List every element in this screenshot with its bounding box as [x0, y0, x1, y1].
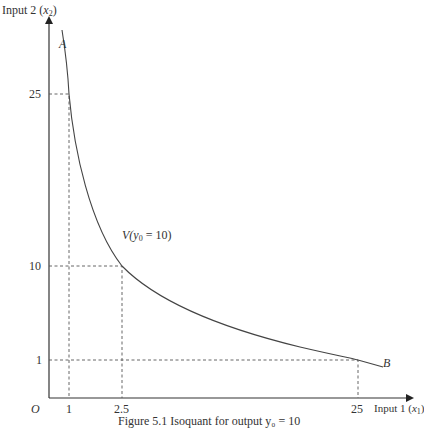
- curve-label: V(y0 = 10): [122, 229, 171, 243]
- point-a-label: A: [59, 38, 66, 50]
- y-axis-label: Input 2 (x2): [2, 4, 57, 18]
- isoquant-curve: [62, 30, 383, 367]
- figure-caption: Figure 5.1 Isoquant for output y₀ = 10: [118, 415, 300, 427]
- origin-label: O: [31, 403, 40, 415]
- x-tick-1: 1: [66, 403, 72, 415]
- x-axis-label: Input 1 (x1): [374, 403, 424, 416]
- y-tick-25: 25: [29, 88, 41, 100]
- y-tick-10: 10: [29, 260, 41, 272]
- reference-lines: [49, 94, 358, 398]
- point-b-label: B: [383, 357, 390, 369]
- y-tick-1: 1: [36, 354, 42, 366]
- x-tick-25: 25: [351, 403, 363, 415]
